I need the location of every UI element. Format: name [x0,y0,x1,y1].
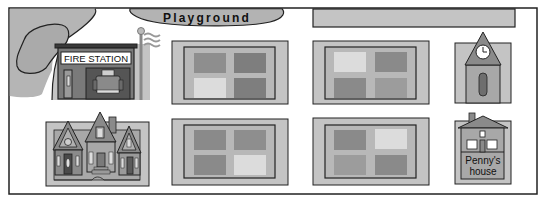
houses-block[interactable] [46,112,149,186]
playground-label: Playground [163,11,251,25]
penny-house-label-line1: Penny's [465,155,500,166]
block-1[interactable] [172,41,288,104]
penny-house-label-line2: house [469,166,497,177]
penny-house[interactable]: Penny's house [455,113,511,184]
clock-tower[interactable] [455,32,511,103]
town-map: Playground FIRE STATION [0,0,543,201]
block-4[interactable] [313,118,429,185]
top-strip [313,9,515,27]
block-2[interactable] [313,41,429,104]
fire-station-label: FIRE STATION [64,53,128,64]
block-3[interactable] [172,119,288,185]
clock-icon [476,45,490,59]
